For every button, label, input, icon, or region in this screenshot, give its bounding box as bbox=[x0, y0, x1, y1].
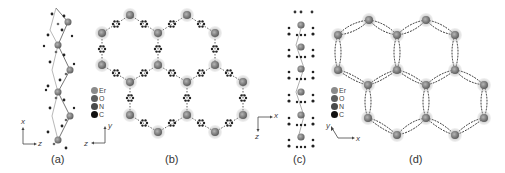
panel-d-framework bbox=[331, 13, 491, 142]
axis-label-c-x: x bbox=[274, 111, 278, 120]
axis-label-b-y: y bbox=[108, 121, 112, 130]
legend-item-o: O bbox=[331, 94, 346, 102]
n-swatch-icon bbox=[331, 103, 338, 110]
crystal-structure-figure bbox=[0, 0, 505, 173]
axis-label-c-z: z bbox=[255, 132, 259, 141]
legend-item-n: N bbox=[331, 102, 346, 110]
legend-item-er: Er bbox=[91, 86, 106, 94]
axis-label-d-y: y bbox=[326, 121, 330, 130]
legend-panel-d: Er O N C bbox=[331, 86, 346, 118]
legend-item-n: N bbox=[91, 102, 106, 110]
c-swatch-icon bbox=[91, 111, 98, 118]
panel-a-chain bbox=[22, 8, 76, 149]
c-swatch-icon bbox=[331, 111, 338, 118]
legend-item-c: C bbox=[91, 110, 106, 118]
chain-units bbox=[287, 21, 314, 148]
panel-label-a: (a) bbox=[51, 153, 64, 165]
axis-label-a-z: z bbox=[38, 139, 42, 148]
o-swatch-icon bbox=[331, 95, 338, 102]
axis-label-a-x: x bbox=[21, 117, 25, 126]
legend-item-er: Er bbox=[331, 86, 346, 94]
panel-label-b: (b) bbox=[165, 153, 178, 165]
panel-label-d: (d) bbox=[409, 153, 422, 165]
o-swatch-icon bbox=[91, 95, 98, 102]
legend-item-c: C bbox=[331, 110, 346, 118]
er-swatch-icon bbox=[91, 87, 98, 94]
axis-label-b-z: z bbox=[84, 139, 88, 148]
panel-b-framework bbox=[91, 8, 250, 145]
panel-c-chain bbox=[257, 11, 315, 149]
legend-panel-b: Er O N C bbox=[91, 86, 106, 118]
er-swatch-icon bbox=[331, 87, 338, 94]
n-swatch-icon bbox=[91, 103, 98, 110]
panel-label-c: (c) bbox=[293, 153, 306, 165]
axis-label-d-x: x bbox=[356, 134, 360, 143]
legend-item-o: O bbox=[91, 94, 106, 102]
